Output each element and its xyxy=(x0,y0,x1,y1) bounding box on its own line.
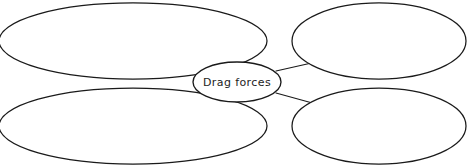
center-node-label: Drag forces xyxy=(203,76,271,89)
branch-node-top-right[interactable] xyxy=(292,3,466,79)
diagram-canvas: Drag forces xyxy=(0,0,468,167)
branch-node-bottom-right[interactable] xyxy=(292,88,466,164)
concept-map-diagram: Drag forces xyxy=(0,0,468,167)
